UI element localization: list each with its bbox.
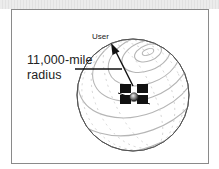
radius-label: 11,000-mile radius bbox=[27, 53, 93, 83]
user-label: User bbox=[92, 32, 109, 41]
radius-label-line2: radius bbox=[27, 68, 93, 83]
orbit-diagram bbox=[0, 0, 219, 169]
radius-label-line1: 11,000-mile bbox=[27, 53, 93, 68]
